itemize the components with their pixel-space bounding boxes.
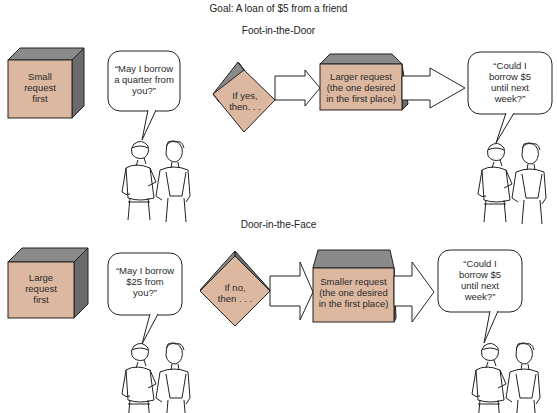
speech-line: week?” [438,291,522,302]
arrow-1 [275,70,320,106]
speech-text-1: “May I borrow a quarter from you?” [108,63,180,96]
label-line: first [8,294,74,305]
speech-line: you?” [108,287,182,298]
label-line: Larger request [320,71,402,82]
smaller-request-label: Smaller request (the one desired in the … [313,276,394,309]
arrow-4 [394,262,434,322]
decision-yes-label: If yes, then. . . [224,90,266,112]
speech-line: until next [438,280,522,291]
small-request-label: Small request first [8,71,72,104]
label-line: If no, [212,282,258,293]
label-line: then . . . [212,293,258,304]
label-line: in the first place) [313,298,394,309]
label-line: (the one desired [320,82,402,93]
speech-line: “Could I [468,60,552,71]
decision-no-label: If no, then . . . [212,282,258,304]
label-line: request [8,283,74,294]
label-line: (the one desired [313,287,394,298]
speech-line: “May I borrow [108,265,182,276]
label-line: If yes, [224,90,266,101]
label-line: Large [8,272,74,283]
speech-line: “Could I [438,258,522,269]
larger-request-label: Larger request (the one desired in the f… [320,71,402,104]
arrow-2 [402,68,465,108]
speech-line: “May I borrow [108,63,180,74]
label-line: then. . . [224,101,266,112]
label-line: in the first place) [320,93,402,104]
speech-line: borrow $5 [438,269,522,280]
label-line: first [8,93,72,104]
speech-line: a quarter from [108,74,180,85]
label-line: Smaller request [313,276,394,287]
label-line: request [8,82,72,93]
arrow-3 [270,262,313,320]
speech-line: week?” [468,93,552,104]
label-line: Small [8,71,72,82]
speech-text-2: “Could I borrow $5 until next week?” [468,60,552,104]
speech-line: until next [468,82,552,93]
speech-text-3: “May I borrow $25 from you?” [108,265,182,298]
speech-line: borrow $5 [468,71,552,82]
speech-line: $25 from [108,276,182,287]
large-request-label: Large request first [8,272,74,305]
speech-text-4: “Could I borrow $5 until next week?” [438,258,522,302]
speech-line: you?” [108,85,180,96]
